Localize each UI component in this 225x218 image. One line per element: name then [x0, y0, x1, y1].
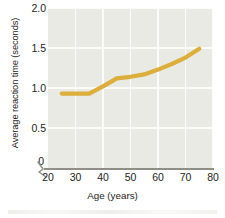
x-tick-label: 60	[145, 171, 171, 184]
x-tick-label: 30	[63, 171, 89, 184]
y-axis-tick-labels: 0.51.01.52.0	[16, 0, 46, 218]
x-tick-label: 70	[173, 171, 199, 184]
x-axis-tick-labels: 20304050607080	[48, 171, 213, 187]
data-line-series	[48, 8, 213, 168]
page-artifact	[8, 210, 217, 214]
x-tick-label: 50	[118, 171, 144, 184]
plot-area	[48, 8, 213, 168]
y-tick-label: 1.5	[20, 43, 46, 54]
x-axis-line	[44, 168, 214, 170]
x-axis-label: Age (years)	[0, 190, 225, 201]
x-tick-label: 80	[200, 171, 225, 184]
reaction-time-chart: Average reaction time (seconds) 0.51.01.…	[0, 0, 225, 218]
x-tick-label: 20	[35, 171, 61, 184]
y-tick-label: 2.0	[20, 3, 46, 14]
x-tick-label: 40	[90, 171, 116, 184]
y-tick-label: 0.5	[20, 123, 46, 134]
y-tick-label: 1.0	[20, 83, 46, 94]
